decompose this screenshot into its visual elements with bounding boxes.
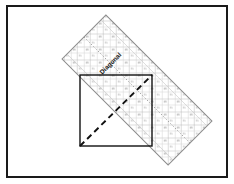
figure-root: 6 4 Diagonal	[0, 0, 234, 184]
diagram-canvas: 6 4 Diagonal	[0, 0, 234, 184]
